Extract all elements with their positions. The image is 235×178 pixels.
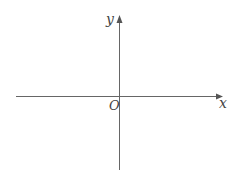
coordinate-plane: y x O xyxy=(0,0,235,178)
y-axis-arrow-icon xyxy=(117,15,123,23)
x-axis-label: x xyxy=(219,95,227,111)
axes-svg: y x O xyxy=(0,0,235,178)
origin-label: O xyxy=(109,98,120,113)
y-axis-label: y xyxy=(105,11,115,27)
